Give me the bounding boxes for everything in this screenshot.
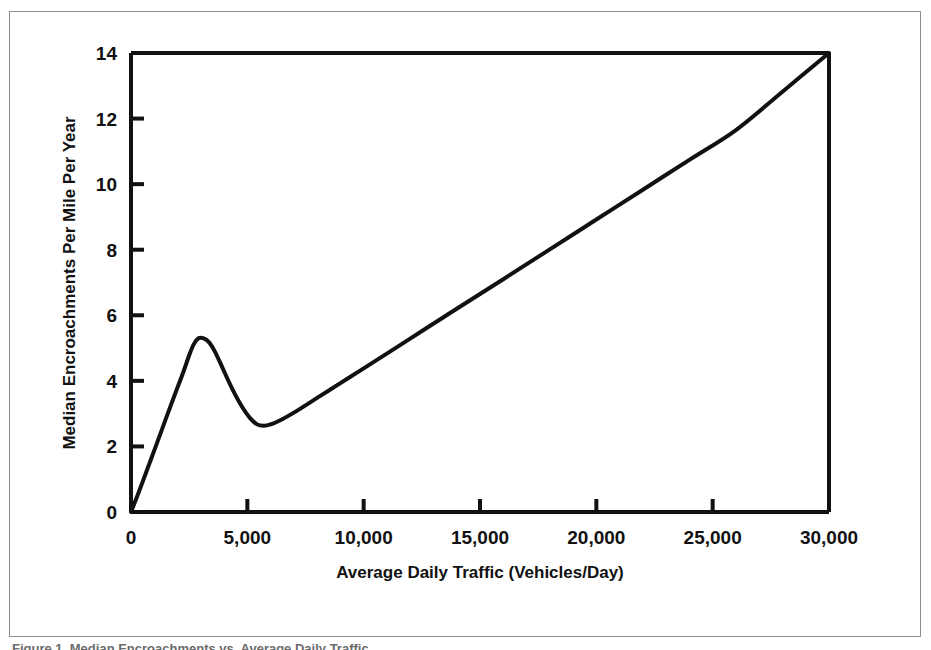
y-tick-label: 10	[96, 174, 117, 195]
chart-svg: Median Encroachments Per Mile Per Year A…	[0, 0, 931, 650]
x-tick-label: 10,000	[335, 527, 393, 548]
x-tick-label: 20,000	[567, 527, 625, 548]
y-tick-label: 6	[106, 305, 117, 326]
y-axis-title: Median Encroachments Per Mile Per Year	[60, 116, 79, 450]
x-tick-label: 25,000	[684, 527, 742, 548]
y-tick-label: 12	[96, 109, 117, 130]
x-tick-label: 30,000	[800, 527, 858, 548]
figure-caption: Figure 1. Median Encroachments vs. Avera…	[12, 641, 612, 650]
y-tick-label: 14	[96, 43, 118, 64]
x-axis-tick-labels: 05,00010,00015,00020,00025,00030,000	[126, 527, 858, 548]
x-tick-label: 15,000	[451, 527, 509, 548]
y-axis-tick-labels: 02468101214	[96, 43, 118, 523]
y-tick-label: 2	[106, 436, 117, 457]
y-tick-label: 0	[106, 502, 117, 523]
y-tick-label: 4	[106, 371, 117, 392]
chart-plot-area: Median Encroachments Per Mile Per Year A…	[0, 0, 931, 650]
x-axis-title: Average Daily Traffic (Vehicles/Day)	[336, 563, 624, 582]
x-tick-label: 5,000	[224, 527, 272, 548]
encroachment-curve	[131, 53, 829, 512]
plot-box-spines	[131, 53, 829, 512]
y-tick-label: 8	[106, 240, 117, 261]
x-tick-label: 0	[126, 527, 137, 548]
